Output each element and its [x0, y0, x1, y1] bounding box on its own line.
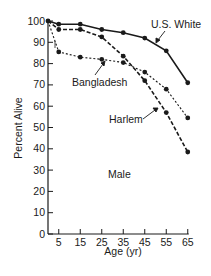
data-point — [56, 27, 61, 32]
y-tick-label: 60 — [33, 100, 45, 112]
data-point — [99, 35, 104, 40]
y-tick-label: 0 — [39, 228, 45, 240]
data-point — [99, 27, 104, 32]
data-point — [121, 30, 126, 35]
label-us-white: U.S. White — [151, 18, 201, 30]
data-point — [142, 70, 147, 75]
label-bangladesh: Bangladesh — [72, 76, 128, 88]
origin-point — [46, 19, 51, 24]
x-tick-label: 15 — [74, 236, 86, 248]
data-point — [142, 36, 147, 41]
y-axis-ticks: 0102030405060708090100 — [27, 15, 53, 240]
data-point — [121, 54, 126, 59]
arrow-harlem — [143, 110, 155, 119]
y-tick-label: 80 — [33, 57, 45, 69]
data-point — [56, 49, 61, 54]
arrow-bangladesh — [95, 64, 103, 75]
y-axis-label: Percent Alive — [12, 97, 24, 158]
data-point — [56, 22, 61, 27]
y-tick-label: 40 — [33, 142, 45, 154]
data-point — [164, 110, 169, 115]
data-point — [185, 150, 190, 155]
data-point — [142, 78, 147, 83]
y-tick-label: 50 — [33, 121, 45, 133]
label-harlem: Harlem — [109, 113, 143, 125]
y-tick-label: 100 — [27, 15, 45, 27]
y-tick-label: 30 — [33, 164, 45, 176]
arrow-us-white — [158, 31, 165, 40]
data-point — [164, 87, 169, 92]
data-point — [185, 80, 190, 85]
x-tick-label: 5 — [56, 236, 62, 248]
x-axis-label: Age (yr) — [104, 245, 141, 257]
x-tick-label: 55 — [160, 236, 172, 248]
y-tick-label: 90 — [33, 36, 45, 48]
data-point — [78, 27, 83, 32]
survival-chart: 0102030405060708090100 5152535455565 Per… — [0, 0, 211, 276]
x-tick-label: 65 — [182, 236, 194, 248]
data-point — [164, 48, 169, 53]
data-point — [121, 60, 126, 65]
y-tick-label: 70 — [33, 78, 45, 90]
data-point — [185, 116, 190, 121]
data-point — [78, 55, 83, 60]
y-tick-label: 20 — [33, 185, 45, 197]
annotation-male: Male — [108, 168, 131, 180]
series-line — [48, 21, 188, 118]
data-point — [78, 22, 83, 27]
series-bangladesh — [48, 21, 190, 120]
y-tick-label: 10 — [33, 206, 45, 218]
data-point — [99, 57, 104, 62]
